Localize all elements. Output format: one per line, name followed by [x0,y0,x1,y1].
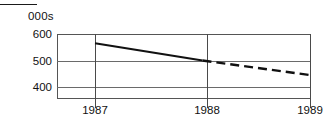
x-tick-label-1987: 1987 [82,104,108,116]
series-actual-line [95,43,203,60]
series-layer [0,0,335,128]
chart-figure: 000s 600 500 400 1987 1988 1989 [0,0,335,128]
series-forecast-line [203,61,311,76]
x-tick-label-1988: 1988 [194,104,220,116]
x-tick-label-1989: 1989 [297,104,323,116]
